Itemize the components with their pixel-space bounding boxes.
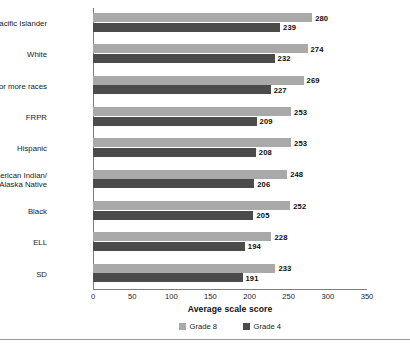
bar-slot: 227 xyxy=(93,85,367,94)
bar-grade-8[interactable] xyxy=(93,264,275,273)
bar-group-row: White274232 xyxy=(93,39,367,70)
legend-item-grade-8[interactable]: Grade 8 xyxy=(179,322,217,331)
bar-group-row: Black252205 xyxy=(93,196,367,227)
bar-group-row: Hispanic253208 xyxy=(93,133,367,164)
bar-slot: 191 xyxy=(93,273,367,282)
bar-value-label: 239 xyxy=(283,23,296,32)
bar-slot: 208 xyxy=(93,148,367,157)
x-tick-label: 300 xyxy=(322,292,335,301)
bar-group-row: American Indian/ Alaska Native248206 xyxy=(93,165,367,196)
category-label: Asian/Pacific Islander xyxy=(0,19,47,28)
bar-grade-4[interactable] xyxy=(93,23,280,32)
bar-grade-4[interactable] xyxy=(93,179,254,188)
bar-value-label: 206 xyxy=(257,179,270,188)
bar-group-row: Asian/Pacific Islander280239 xyxy=(93,8,367,39)
bar-grade-8[interactable] xyxy=(93,44,308,53)
bar-value-label: 233 xyxy=(278,264,291,273)
x-tick-label: 250 xyxy=(282,292,295,301)
category-label: Black xyxy=(0,207,47,216)
category-label: ELL xyxy=(0,238,47,247)
legend-label: Grade 8 xyxy=(190,322,217,331)
category-label: FRPR xyxy=(0,113,47,122)
x-tick-label: 150 xyxy=(204,292,217,301)
category-label: SD xyxy=(0,270,47,279)
bar-grade-8[interactable] xyxy=(93,232,271,241)
bar-grade-8[interactable] xyxy=(93,201,290,210)
legend-label: Grade 4 xyxy=(254,322,281,331)
category-label: Two or more races xyxy=(0,82,47,91)
bar-value-label: 274 xyxy=(311,44,324,53)
bar-slot: 205 xyxy=(93,211,367,220)
bar-slot: 252 xyxy=(93,201,367,210)
bar-grade-8[interactable] xyxy=(93,107,291,116)
bar-value-label: 253 xyxy=(294,107,307,116)
x-tick-label: 0 xyxy=(91,292,95,301)
bar-chart-figure: Asian/Pacific Islander280239White274232T… xyxy=(0,0,410,346)
bar-slot: 209 xyxy=(93,117,367,126)
bar-grade-4[interactable] xyxy=(93,211,253,220)
bar-grade-4[interactable] xyxy=(93,242,245,251)
footer-divider xyxy=(0,339,410,340)
bar-slot: 194 xyxy=(93,242,367,251)
bar-value-label: 280 xyxy=(315,13,328,22)
bar-slot: 253 xyxy=(93,107,367,116)
bar-value-label: 194 xyxy=(248,242,261,251)
bar-grade-8[interactable] xyxy=(93,13,312,22)
bar-group-row: FRPR253209 xyxy=(93,102,367,133)
x-tick-label: 50 xyxy=(128,292,136,301)
bar-value-label: 252 xyxy=(293,201,306,210)
legend-swatch-icon xyxy=(179,323,186,330)
x-tick-label: 100 xyxy=(165,292,178,301)
legend-swatch-icon xyxy=(243,323,250,330)
bar-slot: 248 xyxy=(93,170,367,179)
bar-value-label: 191 xyxy=(246,273,259,282)
bar-grade-4[interactable] xyxy=(93,54,275,63)
bar-slot: 228 xyxy=(93,232,367,241)
category-label: White xyxy=(0,50,47,59)
x-tick-label: 200 xyxy=(243,292,256,301)
bar-slot: 269 xyxy=(93,76,367,85)
bar-rows-container: Asian/Pacific Islander280239White274232T… xyxy=(93,8,367,290)
bar-slot: 239 xyxy=(93,23,367,32)
bar-value-label: 269 xyxy=(307,76,320,85)
x-tick-label: 350 xyxy=(361,292,374,301)
bar-grade-4[interactable] xyxy=(93,148,256,157)
bar-value-label: 208 xyxy=(259,148,272,157)
bar-grade-8[interactable] xyxy=(93,170,287,179)
bar-value-label: 209 xyxy=(260,117,273,126)
bar-grade-4[interactable] xyxy=(93,85,271,94)
bar-group-row: ELL228194 xyxy=(93,227,367,258)
bar-value-label: 227 xyxy=(274,85,287,94)
chart-legend: Grade 8Grade 4 xyxy=(93,322,367,331)
bar-value-label: 232 xyxy=(278,54,291,63)
x-axis-title: Average scale score xyxy=(93,304,367,314)
bar-grade-8[interactable] xyxy=(93,138,291,147)
bar-group-row: Two or more races269227 xyxy=(93,71,367,102)
bar-value-label: 228 xyxy=(274,232,287,241)
legend-item-grade-4[interactable]: Grade 4 xyxy=(243,322,281,331)
bar-slot: 206 xyxy=(93,179,367,188)
bar-grade-8[interactable] xyxy=(93,76,304,85)
category-label: American Indian/ Alaska Native xyxy=(0,171,47,190)
category-label: Hispanic xyxy=(0,144,47,153)
bar-slot: 280 xyxy=(93,13,367,22)
bar-value-label: 205 xyxy=(256,211,269,220)
bar-slot: 274 xyxy=(93,44,367,53)
bar-grade-4[interactable] xyxy=(93,117,257,126)
bar-grade-4[interactable] xyxy=(93,273,243,282)
bar-value-label: 253 xyxy=(294,138,307,147)
bar-slot: 253 xyxy=(93,138,367,147)
bar-slot: 233 xyxy=(93,264,367,273)
bar-value-label: 248 xyxy=(290,170,303,179)
bar-slot: 232 xyxy=(93,54,367,63)
bar-group-row: SD233191 xyxy=(93,259,367,290)
